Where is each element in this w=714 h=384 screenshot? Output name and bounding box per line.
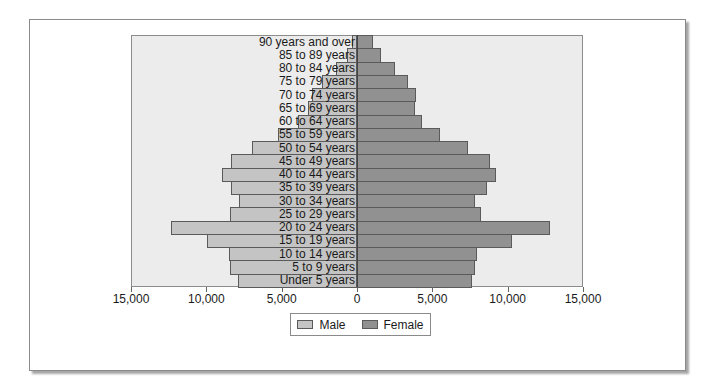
bar-female (357, 101, 415, 115)
bar-female (357, 48, 381, 62)
legend-item-female: Female (362, 318, 424, 332)
female-swatch-icon (362, 320, 378, 329)
age-group-label: 80 to 84 years (279, 62, 355, 75)
male-swatch-icon (297, 320, 313, 329)
legend-label-female: Female (384, 318, 424, 332)
age-group-label: 35 to 39 years (279, 181, 355, 194)
legend-item-male: Male (297, 318, 345, 332)
age-group-label: 85 to 89 years (279, 49, 355, 62)
bar-female (357, 115, 422, 129)
age-group-label: 5 to 9 years (292, 261, 355, 274)
bar-female (357, 247, 477, 261)
bar-female (357, 168, 496, 182)
bar-female (357, 274, 472, 288)
x-axis-tick-label: 5,000 (267, 292, 297, 306)
age-group-label: 20 to 24 years (279, 221, 355, 234)
bar-female (357, 141, 468, 155)
x-axis-tick-label: 15,000 (113, 292, 150, 306)
age-group-label: 10 to 14 years (279, 248, 355, 261)
age-group-label: 25 to 29 years (279, 208, 355, 221)
bar-female (357, 128, 440, 142)
age-group-label: 65 to 69 years (279, 102, 355, 115)
bar-female (357, 260, 475, 274)
x-axis-tick-label: 15,000 (565, 292, 602, 306)
age-group-label: 40 to 44 years (279, 168, 355, 181)
x-axis-tick-label: 10,000 (188, 292, 225, 306)
bar-female (357, 234, 512, 248)
bar-female (357, 35, 373, 49)
age-group-label: 75 to 79 years (279, 75, 355, 88)
bar-female (357, 207, 481, 221)
bar-female (357, 62, 395, 76)
age-group-label: 45 to 49 years (279, 155, 355, 168)
age-group-label: 70 to 74 years (279, 89, 355, 102)
x-axis-tick-label: 0 (354, 292, 361, 306)
zero-axis-line (357, 35, 358, 287)
x-axis-tick-label: 10,000 (489, 292, 526, 306)
bar-female (357, 88, 416, 102)
age-group-label: Under 5 years (280, 274, 355, 287)
age-group-label: 55 to 59 years (279, 128, 355, 141)
age-group-label: 30 to 34 years (279, 195, 355, 208)
legend-label-male: Male (319, 318, 345, 332)
bar-female (357, 221, 550, 235)
bar-female (357, 154, 490, 168)
bar-female (357, 75, 408, 89)
bar-female (357, 181, 487, 195)
legend: Male Female (290, 313, 431, 336)
x-axis-tick-label: 5,000 (417, 292, 447, 306)
age-group-label: 15 to 19 years (279, 234, 355, 247)
bar-female (357, 194, 475, 208)
age-group-label: 90 years and over (259, 36, 355, 49)
age-group-label: 60 to 64 years (279, 115, 355, 128)
age-group-label: 50 to 54 years (279, 142, 355, 155)
